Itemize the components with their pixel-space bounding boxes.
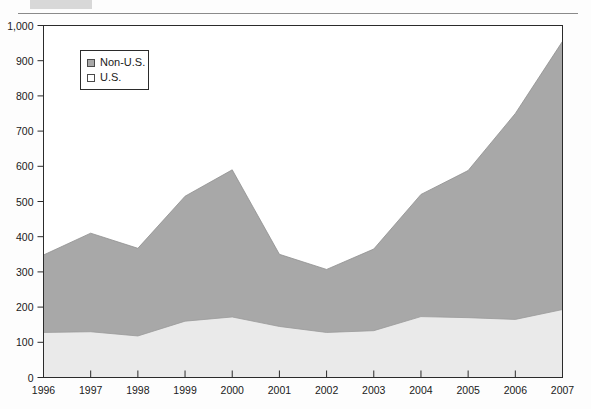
legend-label-us: U.S. <box>100 71 121 83</box>
page-canvas: 01002003004005006007008009001,000 199619… <box>0 0 591 409</box>
x-tick-label: 1998 <box>126 384 150 396</box>
x-tick-label: 2003 <box>362 384 386 396</box>
y-tick-label: 0 <box>28 372 34 384</box>
y-tick-label: 600 <box>16 160 34 172</box>
y-axis: 01002003004005006007008009001,000 <box>7 20 43 384</box>
x-tick-label: 2001 <box>268 384 292 396</box>
y-tick-label: 300 <box>16 266 34 278</box>
legend-swatch-non-us <box>88 60 95 67</box>
y-tick-label: 900 <box>16 55 34 67</box>
x-tick-label: 2000 <box>221 384 245 396</box>
x-tick-label: 1996 <box>32 384 56 396</box>
y-tick-label: 500 <box>16 196 34 208</box>
x-tick-label: 1999 <box>173 384 197 396</box>
y-tick-label: 800 <box>16 90 34 102</box>
x-tick-label: 2004 <box>409 384 433 396</box>
y-tick-label: 700 <box>16 125 34 137</box>
stacked-area-chart: 01002003004005006007008009001,000 199619… <box>0 0 591 409</box>
x-tick-label: 1997 <box>79 384 103 396</box>
x-tick-label: 2007 <box>551 384 575 396</box>
y-tick-label: 400 <box>16 231 34 243</box>
y-tick-label: 200 <box>16 301 34 313</box>
legend-swatch-us <box>88 75 95 82</box>
y-tick-label: 1,000 <box>7 20 33 32</box>
legend-label-non-us: Non-U.S. <box>100 56 145 68</box>
y-tick-label: 100 <box>16 336 34 348</box>
chart-svg: 01002003004005006007008009001,000 199619… <box>0 0 591 409</box>
chart-legend: Non-U.S. U.S. <box>81 51 149 90</box>
x-tick-label: 2006 <box>504 384 528 396</box>
x-tick-label: 2002 <box>315 384 339 396</box>
x-tick-label: 2005 <box>456 384 480 396</box>
